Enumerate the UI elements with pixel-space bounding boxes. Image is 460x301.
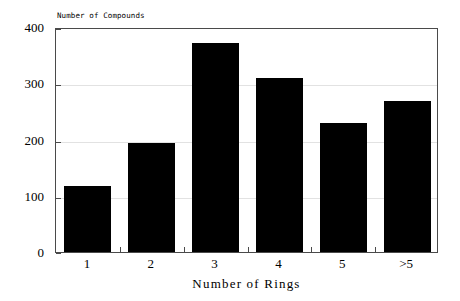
x-axis-title: Number of Rings — [55, 276, 438, 292]
x-tick-mark — [375, 247, 376, 252]
gridline — [56, 142, 437, 143]
bar — [64, 186, 111, 252]
x-axis-tick-labels: 12345>5 — [55, 256, 438, 274]
bar — [320, 123, 367, 252]
x-tick-label: 3 — [211, 256, 218, 272]
y-tick-mark — [56, 253, 61, 254]
y-tick-mark — [56, 198, 61, 199]
x-tick-mark — [120, 247, 121, 252]
bar — [384, 101, 431, 252]
y-tick-label: 0 — [0, 245, 49, 261]
gridline — [56, 85, 437, 86]
plot-area — [55, 28, 438, 253]
y-tick-mark — [56, 85, 61, 86]
x-tick-label: >5 — [399, 256, 413, 272]
y-tick-label: 400 — [0, 20, 49, 36]
x-tick-mark — [184, 247, 185, 252]
x-tick-mark — [248, 247, 249, 252]
x-tick-label: 5 — [339, 256, 346, 272]
y-tick-mark — [56, 142, 61, 143]
x-tick-label: 1 — [84, 256, 91, 272]
plot-inner — [56, 29, 437, 252]
y-tick-label: 300 — [0, 76, 49, 92]
y-axis-title: Number of Compounds — [57, 11, 145, 20]
y-axis-tick-labels: 0100200300400 — [0, 28, 49, 253]
y-tick-mark — [56, 29, 61, 30]
bar — [128, 143, 175, 252]
bar — [192, 43, 239, 252]
gridline — [56, 198, 437, 199]
x-tick-mark — [311, 247, 312, 252]
y-tick-label: 200 — [0, 133, 49, 149]
bar-chart-figure: Number of Compounds 0100200300400 12345>… — [0, 0, 460, 301]
y-tick-label: 100 — [0, 189, 49, 205]
x-tick-label: 4 — [275, 256, 282, 272]
bar — [256, 78, 303, 252]
x-tick-label: 2 — [148, 256, 155, 272]
